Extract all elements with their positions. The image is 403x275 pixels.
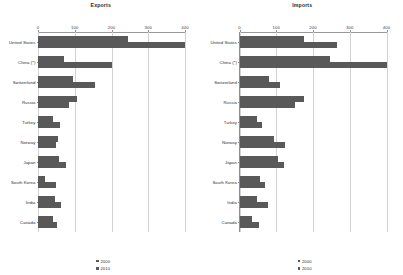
tick-mark-200 [112,30,113,32]
legend-item-2000: 2000 [96,259,110,264]
legend-swatch-2000 [96,260,99,263]
bar-2010 [240,62,387,68]
gridline-400 [185,32,186,232]
category-label: Norway [21,139,36,144]
category-label: Japan [225,159,237,164]
category-label: Canada [20,219,35,224]
tick-mark-100 [75,30,76,32]
bar-group-india: India [240,196,387,208]
legend-label-2000: 2000 [100,259,110,264]
tick-mark-400 [387,30,388,32]
imports-chart-panel: Imports 0100200300400United StatesChina … [202,0,403,275]
bar-2010 [38,82,95,88]
imports-legend: 2000 2010 [298,259,312,271]
x-tick-label-200: 200 [309,25,316,30]
x-tick-label-200: 200 [108,25,115,30]
x-tick-label-0: 0 [37,25,39,30]
bar-group-switzerland: Switzerland [38,76,185,88]
x-tick-label-300: 300 [145,25,152,30]
bar-2010 [38,42,185,48]
bar-2010 [240,162,284,168]
bar-2010 [240,82,280,88]
exports-chart-title: Exports [0,2,202,8]
tick-mark-200 [313,30,314,32]
bar-2010 [38,122,60,128]
category-label: United States [210,39,236,44]
legend-swatch-2010 [298,267,301,270]
tick-mark-300 [350,30,351,32]
bar-group-united-states: United States [240,36,387,48]
bar-group-russia: Russia [38,96,185,108]
x-tick-label-100: 100 [71,25,78,30]
x-tick-label-300: 300 [346,25,353,30]
bar-2010 [240,102,295,108]
bar-group-russia: Russia [240,96,387,108]
category-label: Canada [222,219,237,224]
tick-mark-400 [185,30,186,32]
bar-group-china: China (*) [38,56,185,68]
category-label: China (*) [220,59,237,64]
legend-item-2010: 2010 [96,266,110,271]
bar-group-canada: Canada [240,216,387,228]
bar-2010 [240,122,263,128]
bar-group-south-korea: South Korea [38,176,185,188]
category-label: Turkey [224,119,237,124]
bar-2010 [38,202,61,208]
tick-mark-300 [148,30,149,32]
legend-item-2010: 2010 [298,266,312,271]
category-label: South Korea [11,179,35,184]
x-tick-label-0: 0 [238,25,240,30]
exports-chart-panel: Exports 0100200300400United StatesChina … [0,0,202,275]
bar-2010 [240,142,286,148]
bar-group-canada: Canada [38,216,185,228]
category-label: Switzerland [214,79,237,84]
exports-plot-area: 0100200300400United StatesChina (*)Switz… [38,32,185,232]
category-label: Switzerland [13,79,36,84]
bar-group-japan: Japan [38,156,185,168]
category-label: India [26,199,36,204]
legend-label-2010: 2010 [100,266,110,271]
bar-group-china: China (*) [240,56,387,68]
bar-group-turkey: Turkey [38,116,185,128]
bar-group-norway: Norway [240,136,387,148]
imports-plot-area: 0100200300400United StatesChina (*)Switz… [240,32,387,232]
category-label: Turkey [22,119,35,124]
legend-label-2010: 2010 [302,266,312,271]
legend-label-2000: 2000 [302,259,312,264]
category-label: South Korea [212,179,236,184]
tick-mark-0 [38,30,39,32]
category-label: China (*) [18,59,35,64]
legend-swatch-2010 [96,267,99,270]
bar-2010 [240,42,337,48]
exports-legend: 2000 2010 [96,259,110,271]
legend-item-2000: 2000 [298,259,312,264]
legend-swatch-2000 [298,260,301,263]
imports-chart-title: Imports [202,2,403,8]
category-label: India [227,199,237,204]
bar-group-united-states: United States [38,36,185,48]
x-tick-label-400: 400 [181,25,188,30]
bar-group-south-korea: South Korea [240,176,387,188]
category-label: United States [9,39,35,44]
chart-page: Exports 0100200300400United StatesChina … [0,0,403,275]
x-tick-label-100: 100 [273,25,280,30]
bar-2010 [38,162,66,168]
category-label: Russia [22,99,35,104]
bar-2010 [38,222,57,228]
bar-2010 [38,182,56,188]
x-tick-label-400: 400 [383,25,390,30]
category-label: Japan [23,159,35,164]
bar-2010 [240,182,266,188]
bar-group-japan: Japan [240,156,387,168]
bar-group-norway: Norway [38,136,185,148]
bar-group-india: India [38,196,185,208]
bar-2010 [38,62,112,68]
category-label: Norway [222,139,237,144]
gridline-400 [387,32,388,232]
bar-2010 [240,202,269,208]
bar-2010 [38,102,69,108]
category-label: Russia [223,99,236,104]
bar-group-switzerland: Switzerland [240,76,387,88]
tick-mark-0 [240,30,241,32]
bar-2010 [240,222,259,228]
